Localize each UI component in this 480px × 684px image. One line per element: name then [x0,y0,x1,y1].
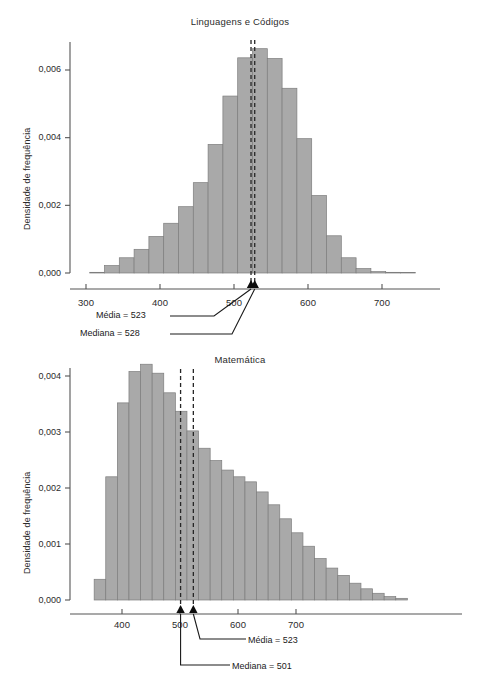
chart-panel-linguagens: Linguagens e Códigos Densidade de frequê… [0,0,480,342]
histogram-bar [384,597,396,600]
histogram-bar [356,269,371,273]
histogram-bar [267,59,282,274]
histogram-bar [373,593,385,600]
histogram-bar [141,364,153,600]
histogram-bar [238,58,253,273]
histogram-bar [349,583,361,600]
histogram-bar [208,144,223,273]
histogram-bar [164,393,176,600]
histogram-bar [361,589,373,600]
histogram-bar [315,559,327,600]
histogram-bar [106,477,118,600]
annotation-leader-mean [193,614,246,639]
histogram-bar [268,505,280,600]
histogram-bar [386,272,401,273]
histogram-bar [105,266,120,273]
histogram-bar [129,372,141,600]
histogram-bar [179,207,194,273]
annotation-arrow-median [176,605,184,613]
histogram-bar [297,139,312,273]
histogram-bar [164,223,179,273]
histogram-bar [199,448,211,600]
histogram-bar [291,533,303,600]
histogram-bar [396,598,408,600]
annotation-arrow-mean [189,605,197,613]
histogram-bar [193,183,208,273]
plot-area-linguagens [0,0,480,342]
histogram-bar [223,96,238,273]
histogram-bar [149,236,164,273]
histogram-bar [280,519,292,600]
histogram-bar [94,579,106,600]
histogram-bar [257,492,269,600]
histogram-bar [233,477,245,600]
histogram-bar [90,272,105,273]
histogram-bar [341,258,356,273]
histogram-bar [134,249,149,273]
plot-area-matematica [0,342,480,684]
histogram-bar [312,196,327,273]
histogram-bar [303,546,315,600]
histogram-bar [327,236,342,273]
histogram-bar [222,470,234,600]
figure-root: Linguagens e Códigos Densidade de frequê… [0,0,480,684]
histogram-bar [245,482,257,600]
chart-panel-matematica: Matemática Densidade de frequência 0,004… [0,342,480,684]
histogram-bar [117,403,129,600]
histogram-bar [152,373,164,600]
histogram-bar [119,258,134,273]
histogram-bar [401,272,416,273]
histogram-bar [210,461,222,600]
histogram-bar [371,272,386,273]
histogram-bar [326,568,338,600]
annotation-leader-mean [170,289,251,316]
histogram-bar [282,88,297,273]
histogram-bar [338,575,350,600]
